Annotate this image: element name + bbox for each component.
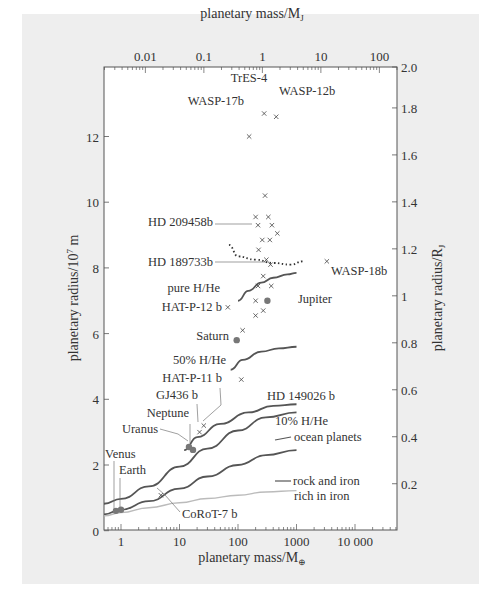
right-tick-label: 0.4 [401, 430, 418, 445]
curve-label-pure: pure H/He [168, 281, 221, 295]
top-tick-label: 100 [370, 49, 390, 64]
right-tick-label: 2.0 [401, 60, 417, 75]
point-label-jupiter: Jupiter [298, 292, 333, 306]
bottom-tick-label: 100 [228, 534, 248, 549]
right-tick-label: 1.8 [401, 101, 417, 116]
point-label-gj436-b: GJ436 b [156, 388, 198, 402]
left-tick-label: 10 [86, 195, 99, 210]
point-label-wasp-12b: WASP-12b [279, 84, 335, 98]
left-tick-label: 0 [93, 524, 100, 539]
planet-dot-marker [233, 337, 239, 343]
left-tick-label: 12 [86, 130, 99, 145]
right-tick-label: 1.2 [401, 242, 417, 257]
bottom-tick-label: 10 [173, 534, 186, 549]
top-tick-label: 1 [259, 49, 266, 64]
point-label-tres-4: TrES-4 [231, 71, 268, 85]
right-axis-title: planetary radius/RJ [430, 244, 447, 351]
top-tick-label: 0.01 [134, 49, 157, 64]
point-label-wasp-17b: WASP-17b [188, 94, 244, 108]
right-tick-label: 1 [401, 289, 408, 304]
curve-label-iron: rich in iron [294, 489, 350, 503]
curve-label-rock: rock and iron [293, 474, 360, 488]
curve-label-10: 10% H/He [275, 414, 329, 428]
point-label-wasp-18b: WASP-18b [331, 264, 387, 278]
point-label-corot-7-b: CoRoT-7 b [182, 507, 237, 521]
bottom-tick-label: 1 [118, 534, 125, 549]
point-label-uranus: Uranus [122, 422, 158, 436]
bottom-tick-label: 10 000 [337, 534, 373, 549]
point-label-hd-209458b: HD 209458b [148, 215, 213, 229]
planet-dot-marker [186, 444, 192, 450]
point-label-venus: Venus [105, 447, 136, 461]
right-tick-label: 0.6 [401, 383, 418, 398]
top-tick-label: 0.1 [196, 49, 212, 64]
point-label-hat-p-11-b: HAT-P-11 b [162, 371, 222, 385]
point-label-earth: Earth [119, 463, 147, 477]
point-label-hat-p-12-b: HAT-P-12 b [162, 300, 222, 314]
bottom-axis-title: planetary mass/M⊕ [198, 550, 305, 567]
right-tick-label: 1.6 [401, 148, 418, 163]
point-label-neptune: Neptune [147, 406, 190, 420]
right-tick-label: 1.4 [401, 195, 418, 210]
left-tick-label: 2 [93, 458, 100, 473]
top-tick-label: 10 [314, 49, 327, 64]
right-tick-label: 0.8 [401, 336, 417, 351]
mass-radius-chart: 110100100010 0000.010.11101000246810120.… [0, 0, 501, 595]
planet-dot-marker [264, 298, 270, 304]
left-tick-label: 6 [93, 327, 100, 342]
right-tick-label: 0.2 [401, 477, 417, 492]
curve-label-50: 50% H/He [173, 353, 227, 367]
left-tick-label: 8 [93, 261, 100, 276]
curve-label-ocean: ocean planets [294, 430, 362, 444]
bottom-tick-label: 1000 [284, 534, 310, 549]
point-label-saturn: Saturn [196, 329, 229, 343]
planet-dot-marker [118, 507, 124, 513]
left-tick-label: 4 [93, 392, 100, 407]
left-axis-title: planetary radius/107 m [65, 235, 81, 362]
top-axis-title: planetary mass/MJ [200, 6, 304, 23]
point-label-hd-189733b: HD 189733b [148, 255, 213, 269]
point-label-hd-149026-b: HD 149026 b [267, 389, 335, 403]
